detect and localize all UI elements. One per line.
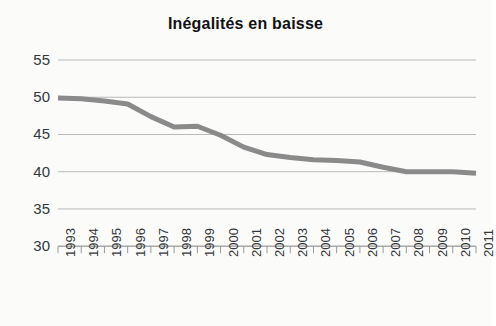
y-tick-label: 35 <box>16 201 50 216</box>
x-tick-label: 2010 <box>459 228 472 257</box>
x-tick-label: 2011 <box>482 229 495 257</box>
x-tick-label: 2001 <box>250 228 263 257</box>
x-tick-label: 2009 <box>436 228 449 257</box>
y-tick-label: 45 <box>16 126 50 141</box>
y-tick-label: 50 <box>16 89 50 104</box>
y-tick-label: 55 <box>16 52 50 67</box>
x-tick-label: 2004 <box>319 228 332 257</box>
x-tick-label: 1998 <box>180 228 193 257</box>
x-tick-label: 2003 <box>296 228 309 257</box>
x-tick-label: 2002 <box>273 228 286 257</box>
x-tick-label: 1996 <box>134 228 147 257</box>
x-tick-label: 1995 <box>110 228 123 257</box>
y-tick-label: 40 <box>16 164 50 179</box>
x-tick-label: 1993 <box>64 228 77 257</box>
data-line-inegalites <box>58 98 476 173</box>
y-tick-label: 30 <box>16 238 50 253</box>
x-tick-label: 2007 <box>389 228 402 257</box>
x-tick-label: 2006 <box>366 228 379 257</box>
x-tick-label: 1994 <box>87 228 100 257</box>
x-tick-label: 2005 <box>343 228 356 257</box>
x-tick-label: 1997 <box>157 228 170 257</box>
x-tick-label: 1999 <box>203 228 216 257</box>
x-tick-label: 2008 <box>412 228 425 257</box>
x-tick-label: 2000 <box>227 228 240 257</box>
